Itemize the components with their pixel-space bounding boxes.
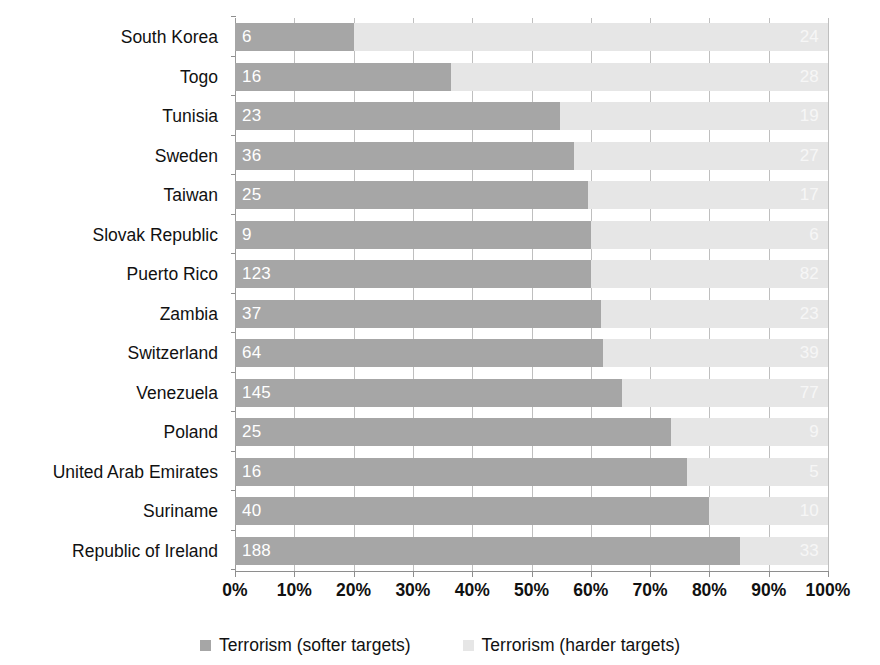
bar-value-label: 36 bbox=[242, 146, 261, 166]
y-axis-label-sweden: Sweden bbox=[0, 142, 227, 170]
bar-segment-harder-targets: 27 bbox=[574, 142, 828, 170]
x-axis-tick-label: 20% bbox=[336, 580, 371, 601]
x-axis-tick bbox=[769, 571, 770, 577]
bar-row: 6439 bbox=[235, 339, 828, 367]
chart-legend: Terrorism (softer targets)Terrorism (har… bbox=[0, 630, 880, 660]
bar-segment-harder-targets: 6 bbox=[591, 221, 828, 249]
x-axis-tick-label: 100% bbox=[806, 580, 851, 601]
bar-segment-softer-targets: 9 bbox=[235, 221, 591, 249]
x-axis-tick-label: 80% bbox=[692, 580, 727, 601]
y-axis-label-switzerland: Switzerland bbox=[0, 339, 227, 367]
y-axis-label-slovak-republic: Slovak Republic bbox=[0, 221, 227, 249]
y-axis-label-suriname: Suriname bbox=[0, 497, 227, 525]
y-axis-label-republic-of-ireland: Republic of Ireland bbox=[0, 537, 227, 565]
x-axis-tick bbox=[235, 571, 236, 577]
bar-segment-harder-targets: 10 bbox=[709, 497, 828, 525]
bar-value-label: 77 bbox=[800, 383, 819, 403]
x-axis-tick bbox=[294, 571, 295, 577]
bar-value-label: 16 bbox=[242, 67, 261, 87]
x-axis-tick bbox=[413, 571, 414, 577]
bar-segment-softer-targets: 23 bbox=[235, 102, 560, 130]
bar-row: 259 bbox=[235, 418, 828, 446]
plot-area: 6241628231936272517961238237236439145772… bbox=[235, 18, 828, 571]
bar-value-label: 39 bbox=[800, 343, 819, 363]
bar-value-label: 40 bbox=[242, 501, 261, 521]
x-axis-tick-label: 0% bbox=[222, 580, 247, 601]
bar-value-label: 10 bbox=[800, 501, 819, 521]
bar-value-label: 123 bbox=[242, 264, 271, 284]
bar-segment-harder-targets: 23 bbox=[601, 300, 828, 328]
bar-value-label: 24 bbox=[800, 27, 819, 47]
bar-value-label: 28 bbox=[800, 67, 819, 87]
x-axis-tick bbox=[828, 571, 829, 577]
bar-value-label: 25 bbox=[242, 422, 261, 442]
y-axis-label-poland: Poland bbox=[0, 418, 227, 446]
bar-row: 624 bbox=[235, 23, 828, 51]
y-axis-label-zambia: Zambia bbox=[0, 300, 227, 328]
bar-value-label: 23 bbox=[800, 304, 819, 324]
bar-segment-harder-targets: 33 bbox=[740, 537, 828, 565]
x-axis-tick bbox=[709, 571, 710, 577]
bar-segment-softer-targets: 145 bbox=[235, 379, 622, 407]
bar-row: 3723 bbox=[235, 300, 828, 328]
bar-value-label: 9 bbox=[809, 422, 819, 442]
bar-segment-harder-targets: 82 bbox=[591, 260, 828, 288]
bar-segment-harder-targets: 28 bbox=[451, 63, 828, 91]
x-axis-tick-label: 30% bbox=[395, 580, 430, 601]
y-axis-label-venezuela: Venezuela bbox=[0, 379, 227, 407]
bar-segment-softer-targets: 123 bbox=[235, 260, 591, 288]
bar-segment-harder-targets: 9 bbox=[671, 418, 828, 446]
x-axis-tick bbox=[354, 571, 355, 577]
bar-value-label: 16 bbox=[242, 462, 261, 482]
bar-segment-softer-targets: 25 bbox=[235, 181, 588, 209]
bar-segment-harder-targets: 39 bbox=[603, 339, 828, 367]
bar-segment-softer-targets: 64 bbox=[235, 339, 603, 367]
y-axis-category-labels: South KoreaTogoTunisiaSwedenTaiwanSlovak… bbox=[0, 18, 227, 571]
legend-item-softer-targets[interactable]: Terrorism (softer targets) bbox=[200, 635, 411, 656]
bar-row: 1628 bbox=[235, 63, 828, 91]
legend-item-harder-targets[interactable]: Terrorism (harder targets) bbox=[463, 635, 680, 656]
legend-label: Terrorism (harder targets) bbox=[482, 635, 680, 656]
y-axis-label-togo: Togo bbox=[0, 63, 227, 91]
gridline-100 bbox=[828, 18, 829, 571]
x-axis-tick-label: 70% bbox=[633, 580, 668, 601]
bar-segment-softer-targets: 188 bbox=[235, 537, 740, 565]
bar-row: 4010 bbox=[235, 497, 828, 525]
bar-row: 14577 bbox=[235, 379, 828, 407]
x-axis-tick bbox=[650, 571, 651, 577]
bar-value-label: 19 bbox=[800, 106, 819, 126]
bar-value-label: 37 bbox=[242, 304, 261, 324]
y-axis-label-puerto-rico: Puerto Rico bbox=[0, 260, 227, 288]
bar-segment-softer-targets: 6 bbox=[235, 23, 354, 51]
bar-value-label: 145 bbox=[242, 383, 271, 403]
x-axis-tick bbox=[472, 571, 473, 577]
bar-segment-harder-targets: 17 bbox=[588, 181, 828, 209]
legend-swatch-icon bbox=[200, 640, 211, 651]
bar-row: 2319 bbox=[235, 102, 828, 130]
bar-row: 3627 bbox=[235, 142, 828, 170]
bar-value-label: 33 bbox=[800, 541, 819, 561]
bar-segment-softer-targets: 16 bbox=[235, 63, 451, 91]
y-axis-label-tunisia: Tunisia bbox=[0, 102, 227, 130]
bar-segment-harder-targets: 77 bbox=[622, 379, 828, 407]
bar-value-label: 9 bbox=[242, 225, 252, 245]
bar-segment-softer-targets: 16 bbox=[235, 458, 687, 486]
bar-row: 12382 bbox=[235, 260, 828, 288]
stacked-bar-chart: South KoreaTogoTunisiaSwedenTaiwanSlovak… bbox=[0, 0, 880, 665]
bar-segment-softer-targets: 36 bbox=[235, 142, 574, 170]
x-axis-tick bbox=[591, 571, 592, 577]
y-axis-label-united-arab-emirates: United Arab Emirates bbox=[0, 458, 227, 486]
bar-row: 18833 bbox=[235, 537, 828, 565]
bar-value-label: 27 bbox=[800, 146, 819, 166]
bar-value-label: 5 bbox=[809, 462, 819, 482]
x-axis-tick-label: 60% bbox=[573, 580, 608, 601]
bar-value-label: 25 bbox=[242, 185, 261, 205]
bar-value-label: 188 bbox=[242, 541, 271, 561]
x-axis-tick-label: 10% bbox=[277, 580, 312, 601]
bar-rows: 6241628231936272517961238237236439145772… bbox=[235, 18, 828, 571]
bar-segment-softer-targets: 25 bbox=[235, 418, 671, 446]
bar-value-label: 17 bbox=[800, 185, 819, 205]
bar-value-label: 6 bbox=[242, 27, 252, 47]
y-axis-label-south-korea: South Korea bbox=[0, 23, 227, 51]
bar-value-label: 64 bbox=[242, 343, 261, 363]
